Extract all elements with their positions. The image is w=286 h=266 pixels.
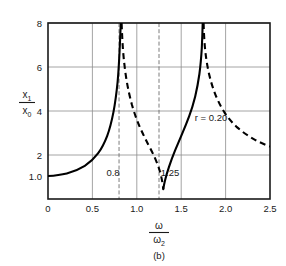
y-axis-title: x1 x0	[19, 89, 35, 118]
figure-caption: (b)	[153, 250, 165, 261]
x-axis-tick-labels: 0 0.5 1.0 1.5 2.0 2.5	[45, 203, 276, 214]
x-tick-0: 0	[45, 203, 50, 214]
x-axis-title: ω ω2	[149, 220, 169, 247]
annotation-damping-ratio: r = 0.20	[195, 112, 227, 123]
y-axis-numerator: x1	[23, 89, 32, 102]
x-axis-numerator: ω	[155, 220, 163, 231]
frequency-response-chart: 8 6 4 2 1.0 0 0.5 1.0 1.5 2.0 2.5 x1 x0	[0, 0, 286, 266]
annotation-label-0-8: 0.8	[106, 167, 119, 178]
figure-panel: 8 6 4 2 1.0 0 0.5 1.0 1.5 2.0 2.5 x1 x0	[0, 0, 286, 266]
x-tick-2-0: 2.0	[219, 203, 232, 214]
y-tick-6: 6	[37, 62, 42, 73]
y-axis-denominator: x0	[23, 105, 32, 118]
y-tick-2: 2	[37, 150, 42, 161]
y-tick-8: 8	[37, 18, 42, 29]
x-tick-0-5: 0.5	[86, 203, 99, 214]
x-tick-2-5: 2.5	[263, 203, 276, 214]
x-tick-1-0: 1.0	[130, 203, 143, 214]
x-tick-1-5: 1.5	[175, 203, 188, 214]
x-axis-denominator: ω2	[153, 234, 165, 247]
y-tick-4: 4	[37, 106, 42, 117]
y-tick-1: 1.0	[29, 171, 42, 182]
annotation-label-1-25: 1.25	[161, 167, 180, 178]
